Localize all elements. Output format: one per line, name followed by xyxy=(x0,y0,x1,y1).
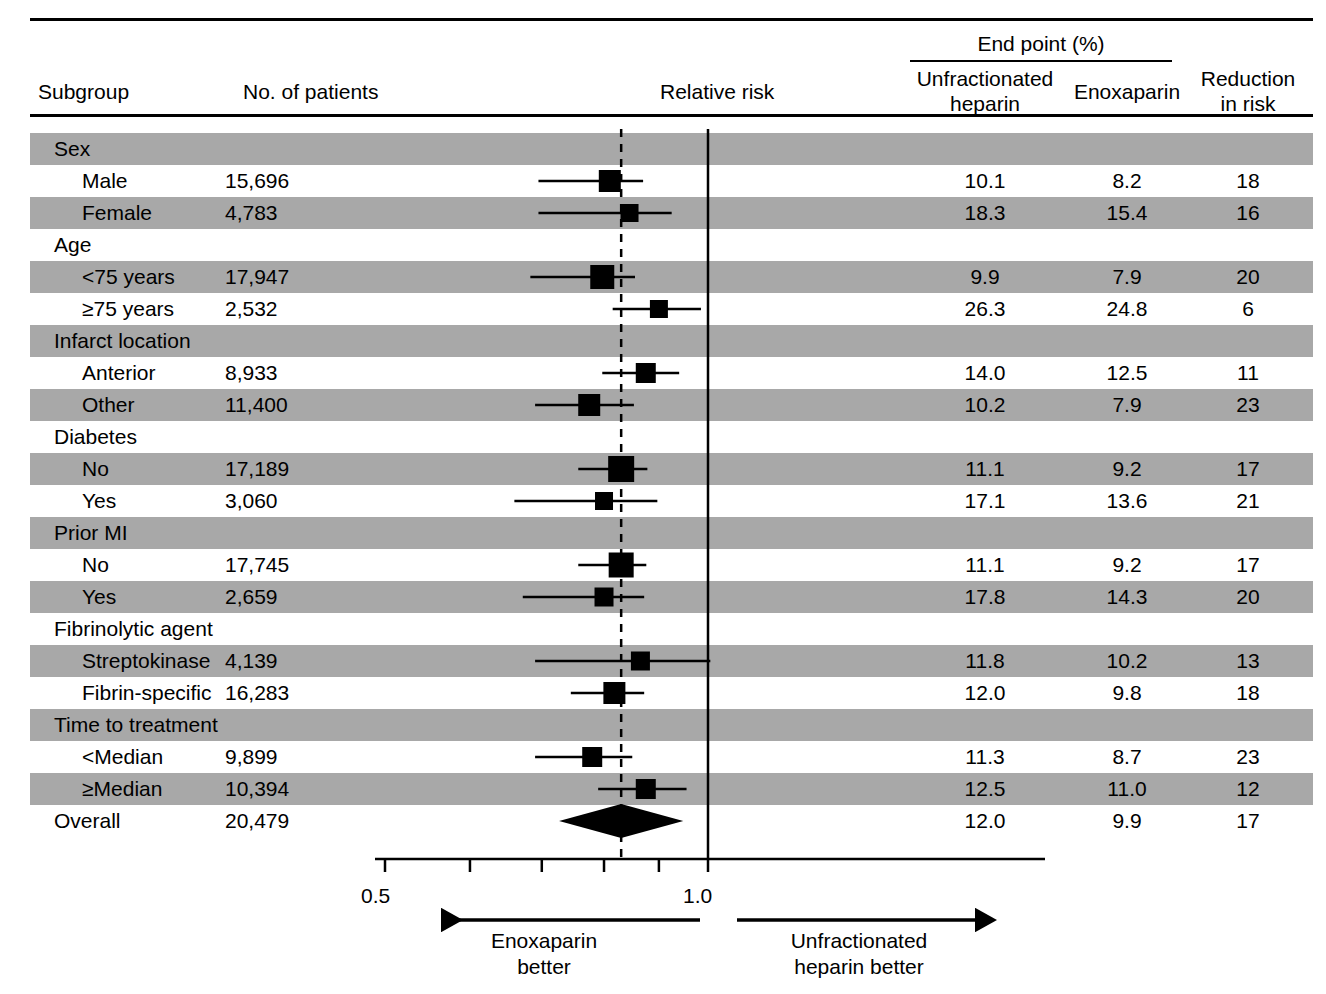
enoxaparin-value: 8.7 xyxy=(1068,741,1186,773)
table-row: Age xyxy=(30,229,1313,261)
subgroup-row-label: Yes xyxy=(82,581,116,613)
footer-label-heparin-better: Unfractionated heparin better xyxy=(728,928,990,980)
unfractionated-heparin-value: 11.8 xyxy=(905,645,1065,677)
unfractionated-heparin-value: 12.0 xyxy=(905,805,1065,837)
enoxaparin-value: 10.2 xyxy=(1068,645,1186,677)
enoxaparin-value: 13.6 xyxy=(1068,485,1186,517)
unfractionated-heparin-value: 18.3 xyxy=(905,197,1065,229)
table-row: Other11,40010.27.923 xyxy=(30,389,1313,421)
footer-label-heparin-better-line2: heparin better xyxy=(728,954,990,980)
endpoint-rule xyxy=(910,60,1172,62)
unfractionated-heparin-value: 17.8 xyxy=(905,581,1065,613)
header-rule xyxy=(30,114,1313,117)
subgroup-group-label: Time to treatment xyxy=(54,709,218,741)
enoxaparin-value: 9.8 xyxy=(1068,677,1186,709)
table-row: Streptokinase4,13911.810.213 xyxy=(30,645,1313,677)
no-of-patients-value: 4,139 xyxy=(225,645,375,677)
unfractionated-heparin-value: 9.9 xyxy=(905,261,1065,293)
footer-label-enoxaparin-better-line2: better xyxy=(432,954,656,980)
column-header-reduction-in-risk-line2: in risk xyxy=(1186,91,1310,116)
no-of-patients-value: 15,696 xyxy=(225,165,375,197)
table-row: Female4,78318.315.416 xyxy=(30,197,1313,229)
table-row: Overall20,47912.09.917 xyxy=(30,805,1313,837)
subgroup-row-label: Female xyxy=(82,197,152,229)
reduction-in-risk-value: 21 xyxy=(1186,485,1310,517)
table-row: Time to treatment xyxy=(30,709,1313,741)
table-row: <Median9,89911.38.723 xyxy=(30,741,1313,773)
table-row: ≥75 years2,53226.324.86 xyxy=(30,293,1313,325)
reduction-in-risk-value: 12 xyxy=(1186,773,1310,805)
subgroup-row-label: Yes xyxy=(82,485,116,517)
unfractionated-heparin-value: 12.0 xyxy=(905,677,1065,709)
enoxaparin-value: 9.2 xyxy=(1068,549,1186,581)
unfractionated-heparin-value: 26.3 xyxy=(905,293,1065,325)
table-row: ≥Median10,39412.511.012 xyxy=(30,773,1313,805)
no-of-patients-value: 20,479 xyxy=(225,805,375,837)
no-of-patients-value: 2,659 xyxy=(225,581,375,613)
unfractionated-heparin-value: 11.1 xyxy=(905,453,1065,485)
no-of-patients-value: 10,394 xyxy=(225,773,375,805)
subgroup-row-label: <75 years xyxy=(82,261,175,293)
reduction-in-risk-value: 20 xyxy=(1186,581,1310,613)
column-header-unfractionated-heparin-line2: heparin xyxy=(905,91,1065,116)
column-header-reduction-in-risk: Reduction in risk xyxy=(1186,66,1310,116)
reduction-in-risk-value: 20 xyxy=(1186,261,1310,293)
subgroup-row-label: ≥Median xyxy=(82,773,162,805)
subgroup-group-label: Infarct location xyxy=(54,325,191,357)
subgroup-row-label: Male xyxy=(82,165,128,197)
column-header-unfractionated-heparin: Unfractionated heparin xyxy=(905,66,1065,116)
enoxaparin-value: 15.4 xyxy=(1068,197,1186,229)
footer-label-heparin-better-line1: Unfractionated xyxy=(728,928,990,954)
enoxaparin-value: 7.9 xyxy=(1068,389,1186,421)
no-of-patients-value: 4,783 xyxy=(225,197,375,229)
reduction-in-risk-value: 18 xyxy=(1186,677,1310,709)
table-row: Diabetes xyxy=(30,421,1313,453)
enoxaparin-value: 12.5 xyxy=(1068,357,1186,389)
reduction-in-risk-value: 13 xyxy=(1186,645,1310,677)
no-of-patients-value: 17,745 xyxy=(225,549,375,581)
unfractionated-heparin-value: 11.1 xyxy=(905,549,1065,581)
table-row: Male15,69610.18.218 xyxy=(30,165,1313,197)
table-row: Fibrinolytic agent xyxy=(30,613,1313,645)
no-of-patients-value: 17,947 xyxy=(225,261,375,293)
subgroup-row-label: Streptokinase xyxy=(82,645,210,677)
subgroup-row-label: Overall xyxy=(54,805,121,837)
reduction-in-risk-value: 23 xyxy=(1186,741,1310,773)
column-header-enoxaparin: Enoxaparin xyxy=(1068,79,1186,104)
table-row: No17,74511.19.217 xyxy=(30,549,1313,581)
table-row: Sex xyxy=(30,133,1313,165)
unfractionated-heparin-value: 12.5 xyxy=(905,773,1065,805)
enoxaparin-value: 9.9 xyxy=(1068,805,1186,837)
top-rule xyxy=(30,18,1313,21)
column-header-relative-risk: Relative risk xyxy=(660,79,774,104)
table-row: Infarct location xyxy=(30,325,1313,357)
enoxaparin-value: 7.9 xyxy=(1068,261,1186,293)
axis-tick-label-high: 1.0 xyxy=(683,884,712,908)
no-of-patients-value: 9,899 xyxy=(225,741,375,773)
enoxaparin-value: 8.2 xyxy=(1068,165,1186,197)
subgroup-row-label: Other xyxy=(82,389,135,421)
table-row: Yes2,65917.814.320 xyxy=(30,581,1313,613)
no-of-patients-value: 8,933 xyxy=(225,357,375,389)
no-of-patients-value: 16,283 xyxy=(225,677,375,709)
no-of-patients-value: 3,060 xyxy=(225,485,375,517)
enoxaparin-value: 24.8 xyxy=(1068,293,1186,325)
subgroup-group-label: Age xyxy=(54,229,91,261)
enoxaparin-value: 11.0 xyxy=(1068,773,1186,805)
no-of-patients-value: 2,532 xyxy=(225,293,375,325)
reduction-in-risk-value: 17 xyxy=(1186,805,1310,837)
enoxaparin-value: 14.3 xyxy=(1068,581,1186,613)
subgroup-row-label: No xyxy=(82,453,109,485)
subgroup-row-label: Fibrin-specific xyxy=(82,677,212,709)
reduction-in-risk-value: 18 xyxy=(1186,165,1310,197)
subgroup-group-label: Fibrinolytic agent xyxy=(54,613,213,645)
footer-label-enoxaparin-better: Enoxaparin better xyxy=(432,928,656,980)
reduction-in-risk-value: 17 xyxy=(1186,453,1310,485)
reduction-in-risk-value: 23 xyxy=(1186,389,1310,421)
reduction-in-risk-value: 11 xyxy=(1186,357,1310,389)
table-row: Yes3,06017.113.621 xyxy=(30,485,1313,517)
table-row: Fibrin-specific16,28312.09.818 xyxy=(30,677,1313,709)
subgroup-row-label: <Median xyxy=(82,741,163,773)
column-header-no-of-patients: No. of patients xyxy=(243,79,378,104)
table-row: Prior MI xyxy=(30,517,1313,549)
